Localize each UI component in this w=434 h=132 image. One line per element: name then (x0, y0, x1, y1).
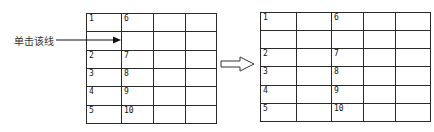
pointer-arrowhead-icon (113, 37, 121, 44)
transition-arrow-icon (221, 57, 254, 71)
diagram-overlay (0, 0, 434, 132)
